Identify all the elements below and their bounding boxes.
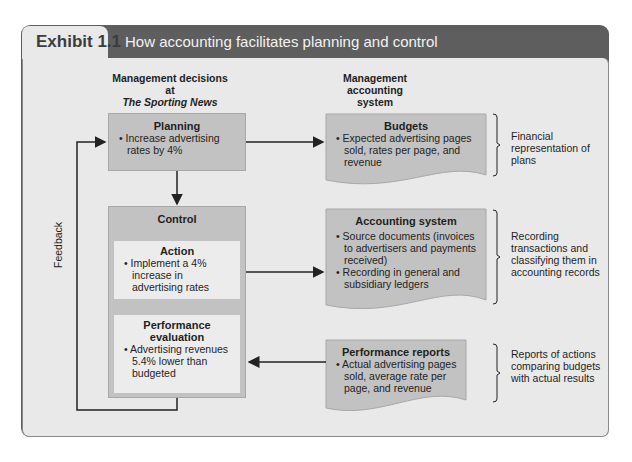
note-reports: Reports of actions comparing budgets wit…: [511, 348, 601, 384]
brace-reports: [493, 344, 500, 402]
accounting-text: Accounting system • Source documents (in…: [326, 209, 486, 290]
budgets-title: Budgets: [326, 120, 486, 132]
planning-title: Planning: [109, 120, 245, 132]
note-accounting: Recording transactions and classifying t…: [511, 230, 601, 278]
evaluation-title: Performanceevaluation: [114, 319, 240, 343]
planning-box: Planning • Increase advertising rates by…: [108, 113, 246, 171]
planning-bullet: • Increase advertising rates by 4%: [109, 132, 241, 156]
budgets-bullet: • Expected advertising pages sold, rates…: [326, 132, 482, 168]
reports-bullet: • Actual advertising pages sold, average…: [326, 358, 462, 394]
accounting-bullet: • Recording in general and subsidiary le…: [326, 266, 482, 290]
reports-title: Performance reports: [326, 346, 466, 358]
brace-accounting: [493, 210, 500, 304]
action-title: Action: [114, 245, 240, 257]
evaluation-box: Performanceevaluation • Advertising reve…: [114, 315, 240, 393]
evaluation-bullet: • Advertising revenues 5.4% lower than b…: [114, 343, 236, 379]
budgets-text: Budgets • Expected advertising pages sol…: [326, 114, 486, 168]
accounting-title: Accounting system: [326, 215, 486, 227]
reports-text: Performance reports • Actual advertising…: [326, 340, 466, 394]
action-bullet: • Implement a 4% increase in advertising…: [114, 257, 236, 293]
note-budgets: Financial representation of plans: [511, 130, 601, 166]
accounting-bullet: • Source documents (invoices to advertis…: [326, 230, 482, 266]
brace-budgets: [493, 114, 500, 176]
control-title: Control: [109, 213, 245, 225]
action-box: Action • Implement a 4% increase in adve…: [114, 241, 240, 299]
feedback-label: Feedback: [52, 222, 64, 268]
